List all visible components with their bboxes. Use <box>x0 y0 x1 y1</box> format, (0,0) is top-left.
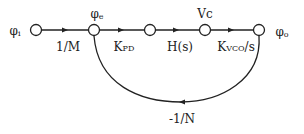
node-phi-i <box>31 25 42 36</box>
gain-label-neg-1-over-n: -1/N <box>169 113 195 125</box>
branch-n3-to-vc <box>156 28 199 33</box>
branch-phi-e-to-n3 <box>100 28 144 33</box>
arrow-icon <box>228 28 234 33</box>
gain-label-kvco-over-s: KVCO/s <box>217 41 255 53</box>
signal-flow-graph <box>0 0 304 134</box>
arrow-icon <box>179 100 185 105</box>
node-phi-e <box>89 25 100 36</box>
node-label-phi-i: φi <box>10 25 21 38</box>
gain-label-kpd: KPD <box>114 41 135 53</box>
arrow-icon <box>173 28 179 33</box>
node-n3 <box>145 25 156 36</box>
gain-label-1-over-m: 1/M <box>56 41 80 53</box>
branch-vc-to-phi-o <box>211 28 253 33</box>
branch-phi-i-to-phi-e <box>42 28 88 33</box>
arrow-icon <box>118 28 124 33</box>
node-label-phi-o: φo <box>275 26 288 39</box>
node-vc <box>200 25 211 36</box>
node-label-phi-e: φe <box>90 8 103 21</box>
node-phi-o <box>254 25 265 36</box>
arrow-icon <box>62 28 68 33</box>
node-label-vc: Vc <box>197 8 212 20</box>
gain-label-hs: H(s) <box>167 41 193 53</box>
